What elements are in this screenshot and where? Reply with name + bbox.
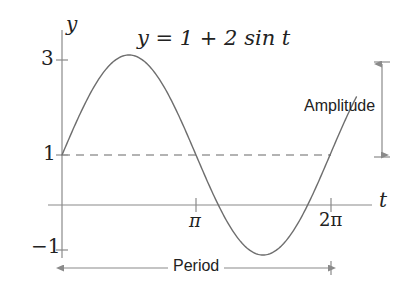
- amplitude-annotation-label: Amplitude: [304, 98, 375, 114]
- y-tick-label-minus-1: −1: [31, 236, 60, 256]
- y-tick-label-1: 1: [43, 143, 56, 163]
- y-axis-label: y: [66, 14, 77, 34]
- y-tick-label-3: 3: [41, 48, 54, 68]
- t-tick-label-2pi: 2π: [319, 211, 342, 229]
- t-tick-label-pi: π: [189, 212, 201, 230]
- t-axis-label: t: [379, 190, 387, 210]
- period-annotation-label: Period: [168, 258, 224, 274]
- sine-graph-figure: y t 3 1 −1 π 2π y = 1 + 2 sin t Amplitud…: [0, 0, 416, 293]
- equation-label: y = 1 + 2 sin t: [137, 28, 290, 49]
